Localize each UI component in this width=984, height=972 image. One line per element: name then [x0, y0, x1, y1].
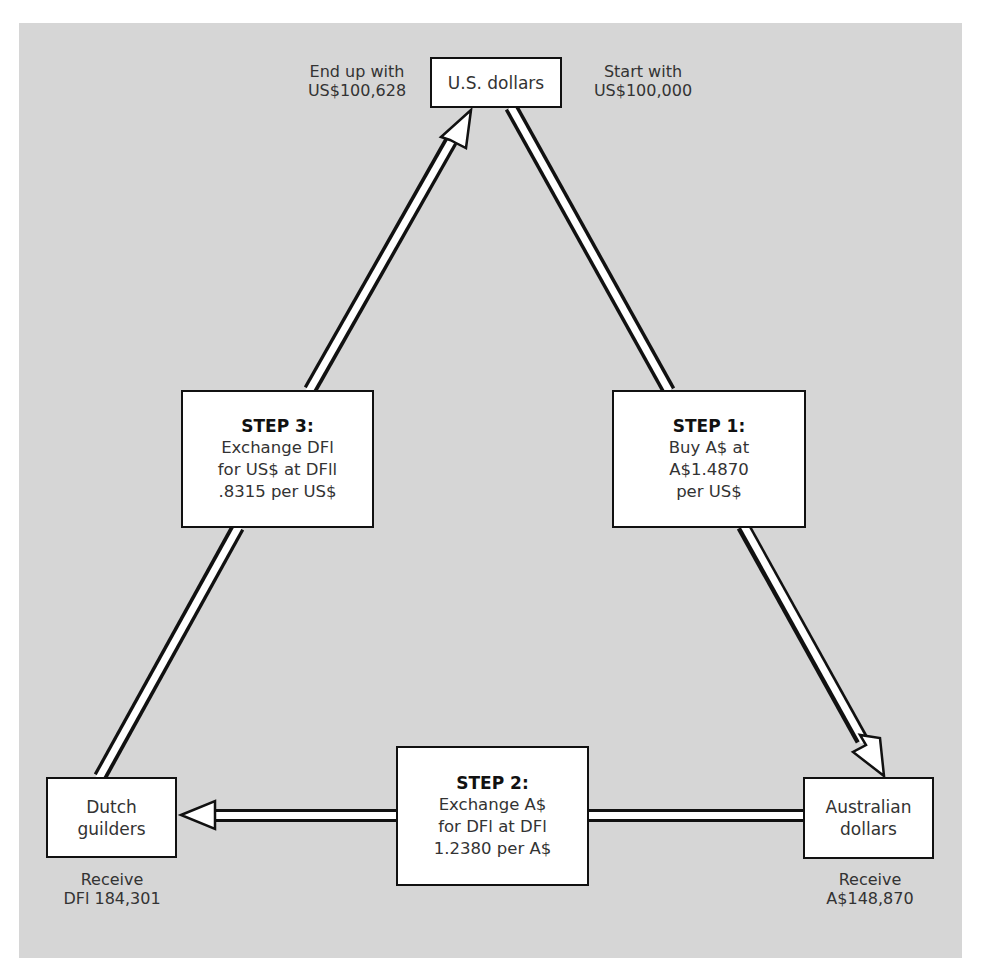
node-dfl-label-1: Dutch	[86, 796, 137, 818]
step-3-line: .8315 per US$	[218, 481, 336, 503]
arrow-step3-to-us	[308, 110, 471, 393]
receive-dfl-line1: Receive	[42, 870, 182, 889]
start-label-amount: US$100,000	[578, 81, 708, 100]
node-us-label: U.S. dollars	[448, 72, 544, 94]
step-2-line: 1.2380 per A$	[434, 838, 551, 860]
step-3-title: STEP 3:	[241, 415, 313, 437]
arrow-dfl-to-step3	[98, 524, 240, 780]
node-australian-dollars: Australian dollars	[803, 777, 934, 859]
arrow-us-to-step1	[511, 107, 669, 391]
start-with-label: Start with US$100,000	[578, 62, 708, 100]
receive-aud-amount: A$148,870	[800, 889, 940, 908]
receive-dfl-amount: DFl 184,301	[42, 889, 182, 908]
end-label-line1: End up with	[292, 62, 422, 81]
step-1-box: STEP 1: Buy A$ at A$1.4870 per US$	[612, 390, 806, 528]
step-2-box: STEP 2: Exchange A$ for DFl at DFl 1.238…	[396, 746, 589, 886]
step-2-title: STEP 2:	[456, 772, 528, 794]
receive-aud-label: Receive A$148,870	[800, 870, 940, 908]
arrow-step1-to-aud	[743, 524, 884, 776]
step-2-line: for DFl at DFl	[438, 816, 547, 838]
node-dutch-guilders: Dutch guilders	[46, 777, 177, 858]
step-1-title: STEP 1:	[673, 415, 745, 437]
step-2-line: Exchange A$	[439, 794, 547, 816]
step-3-line: Exchange DFl	[221, 437, 334, 459]
start-label-line1: Start with	[578, 62, 708, 81]
step-3-line: for US$ at DFll	[218, 459, 337, 481]
arrow-step2-to-dfl	[181, 801, 398, 829]
node-aud-label-2: dollars	[840, 818, 897, 840]
step-1-line: A$1.4870	[669, 459, 749, 481]
receive-aud-line1: Receive	[800, 870, 940, 889]
node-us-dollars: U.S. dollars	[430, 57, 562, 108]
end-up-with-label: End up with US$100,628	[292, 62, 422, 100]
step-1-line: Buy A$ at	[669, 437, 749, 459]
receive-dfl-label: Receive DFl 184,301	[42, 870, 182, 908]
node-aud-label-1: Australian	[826, 796, 912, 818]
step-3-box: STEP 3: Exchange DFl for US$ at DFll .83…	[181, 390, 374, 528]
node-dfl-label-2: guilders	[77, 818, 145, 840]
step-1-line: per US$	[676, 481, 742, 503]
end-label-amount: US$100,628	[292, 81, 422, 100]
